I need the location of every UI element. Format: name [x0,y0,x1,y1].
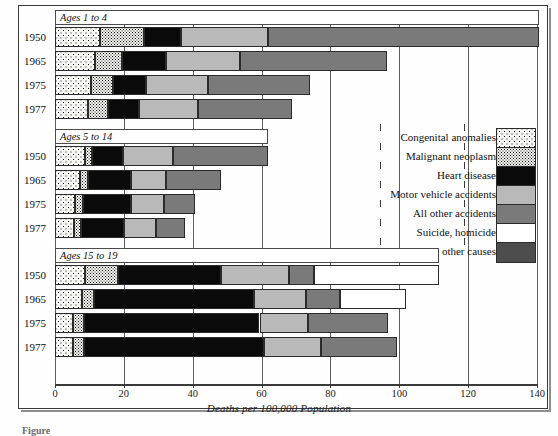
bar-segment-motor [131,194,164,214]
year-label: 1977 [0,218,46,238]
bar-segment-heart [144,27,181,47]
year-label: 1977 [0,337,46,357]
bar-segment-congenital [55,194,75,214]
bar-segment-malignant [73,313,84,333]
legend-leader-line [464,238,465,245]
legend-label: Congenital anomalies [400,129,496,145]
legend-leader-line [380,181,381,188]
year-label: 1975 [0,194,46,214]
legend-swatch-motor [497,186,535,205]
bar-segment-congenital [55,289,82,309]
bar-segment-malignant [100,27,144,47]
bar-segment-allacc [164,194,195,214]
legend-swatch-congenital [497,129,535,148]
year-label: 1975 [0,313,46,333]
bar-segment-heart [88,170,131,190]
bar-segment-congenital [55,265,85,285]
bar-segment-suicide [314,265,439,285]
legend-leader-line [464,162,465,169]
bar-segment-congenital [55,51,95,71]
bar-segment-malignant [91,75,113,95]
table-row: 1965 [0,289,537,309]
tick-label-100: 100 [391,388,407,399]
group-header-2: Ages 15 to 19 [55,248,439,263]
bar-segment-heart [84,313,260,333]
legend-label: Suicide, homicide [417,224,496,240]
year-label: 1965 [0,170,46,190]
legend-leader-line [380,162,381,169]
bar-segment-malignant [74,218,81,238]
bar-segment-heart [92,146,123,166]
legend-swatch-allacc [497,205,535,224]
legend-leader-line [464,143,465,150]
bar-segment-congenital [55,99,88,119]
tick-label-80: 80 [325,388,336,399]
bar-segment-allacc [208,75,311,95]
bar-segment-allacc [268,27,539,47]
bar-segment-malignant [80,170,88,190]
bar-segment-suicide [340,289,406,309]
bar-segment-motor [131,170,166,190]
bar-segment-congenital [55,27,100,47]
bar-segment-heart [122,51,165,71]
tick-label-120: 120 [460,388,476,399]
legend-leader-line [464,200,465,207]
bar-segment-motor [124,218,156,238]
bar-segment-allacc [156,218,185,238]
bar-segment-motor [221,265,289,285]
table-row: 1950 [0,265,537,285]
table-row: 1975 [0,313,537,333]
legend-leader-line [380,219,381,226]
year-label: 1975 [0,75,46,95]
legend-label: Heart disease [437,167,496,183]
legend-swatch-suicide [497,224,535,243]
table-row: 1950 [0,27,537,47]
bar-segment-heart [118,265,221,285]
bar-segment-motor [146,75,207,95]
table-row: 1977 [0,99,537,119]
group-header-0: Ages 1 to 4 [55,10,539,25]
bar-segment-motor [139,99,198,119]
tick-label-60: 60 [256,388,267,399]
year-label: 1965 [0,289,46,309]
bar-segment-allacc [321,337,397,357]
bar-segment-allacc [306,289,340,309]
bar-segment-heart [81,218,124,238]
bar-segment-malignant [85,265,118,285]
legend-leader-line [380,200,381,207]
year-label: 1950 [0,27,46,47]
legend-label: Motor vehicle accidents [390,186,496,202]
legend-leader-line [380,238,381,245]
legend-swatch-malignant [497,148,535,167]
bar-segment-motor [166,51,240,71]
figure-caption: Figure [22,425,50,436]
bar-segment-motor [264,337,321,357]
table-row: 1975 [0,75,537,95]
bar-segment-motor [254,289,306,309]
bar-segment-malignant [88,99,108,119]
legend-leader-line [464,124,465,131]
bar-segment-allacc [198,99,292,119]
bar-segment-allacc [166,170,221,190]
bar-segment-congenital [55,313,73,333]
bar-segment-allacc [308,313,388,333]
tick-label-140: 140 [529,388,545,399]
year-label: 1977 [0,99,46,119]
legend-leader-line [380,124,381,131]
bar-segment-malignant [75,194,83,214]
bar-segment-congenital [55,75,91,95]
bar-segment-congenital [55,218,74,238]
bar-segment-malignant [95,51,122,71]
bar-segment-malignant [85,146,92,166]
tick-label-20: 20 [119,388,130,399]
bar-segment-heart [108,99,139,119]
legend-leader-line [464,181,465,188]
legend-swatches [496,128,536,263]
bar-segment-malignant [82,289,94,309]
bar-segment-motor [181,27,267,47]
legend-leader-line [464,219,465,226]
bar-segment-congenital [55,146,85,166]
bar-segment-motor [123,146,173,166]
bar-segment-allacc [173,146,268,166]
